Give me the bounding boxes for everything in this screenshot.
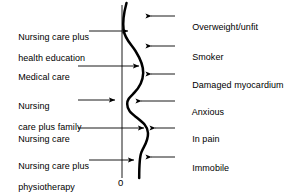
right-label-in-pain: In pain (182, 123, 220, 155)
left-label-line1: Medical care (18, 72, 70, 82)
annotated-curve-figure: Nursing care plus health education Medic… (0, 0, 294, 193)
right-label-overweight-unfit: Overweight/unfit (182, 11, 258, 43)
left-label-line1: Nursing (18, 101, 49, 111)
right-label-immobile: Immobile (182, 152, 229, 184)
right-label-text: Anxious (192, 107, 224, 117)
right-label-text: In pain (192, 134, 219, 144)
left-label-nursing-care-plus-physiotherapy: Nursing care plus physiotherapy (8, 150, 89, 193)
right-label-text: Smoker (192, 52, 223, 62)
main-curve (123, 3, 148, 178)
right-label-smoker: Smoker (182, 41, 224, 73)
left-label-line1: Nursing care (18, 134, 70, 144)
right-label-text: Immobile (192, 163, 229, 173)
left-label-line1: Nursing care plus (18, 32, 89, 42)
right-label-text: Damaged myocardium (192, 80, 283, 90)
right-label-text: Overweight/unfit (192, 22, 258, 32)
left-label-medical-care: Medical care (8, 61, 70, 93)
left-label-line1: Nursing care plus (18, 161, 89, 171)
left-label-line2: physiotherapy (18, 182, 75, 192)
axis-zero-label: 0 (118, 178, 123, 188)
